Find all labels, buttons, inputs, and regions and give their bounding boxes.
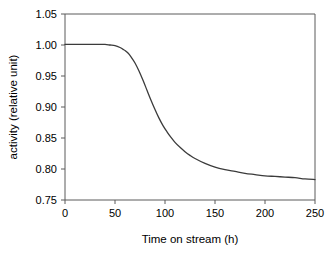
- x-axis-title: Time on stream (h): [142, 233, 239, 245]
- x-tick-label: 150: [206, 207, 224, 219]
- y-axis-title: activity (relative unit): [7, 54, 19, 159]
- x-tick-label: 50: [109, 207, 121, 219]
- chart-container: 0.750.800.850.900.951.001.05 05010015020…: [0, 0, 333, 253]
- line-chart: 0.750.800.850.900.951.001.05 05010015020…: [0, 0, 333, 253]
- y-tick-label: 0.95: [36, 70, 57, 82]
- x-tick-label: 0: [62, 207, 68, 219]
- x-tick-label: 200: [256, 207, 274, 219]
- x-tick-label: 100: [156, 207, 174, 219]
- y-tick-label: 0.75: [36, 194, 57, 206]
- y-tick-label: 0.85: [36, 132, 57, 144]
- y-tick-label: 0.80: [36, 163, 57, 175]
- y-tick-label: 0.90: [36, 101, 57, 113]
- y-tick-label: 1.05: [36, 8, 57, 20]
- y-tick-label: 1.00: [36, 39, 57, 51]
- x-tick-label: 250: [306, 207, 324, 219]
